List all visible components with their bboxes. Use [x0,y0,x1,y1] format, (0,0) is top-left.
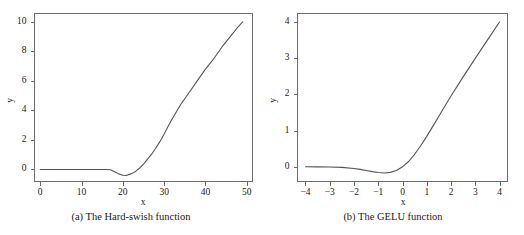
y-axis-label-b: y [269,93,279,103]
x-tick-label: 3 [473,188,478,198]
x-tick [82,182,83,186]
x-tick-label: −1 [373,188,383,198]
y-tick-label: 4 [266,17,290,27]
y-tick-label: 1 [266,126,290,136]
y-tick [294,58,298,59]
y-tick [31,22,35,23]
x-tick [500,182,501,186]
y-tick [294,22,298,23]
curve-hard-swish [34,13,253,182]
curve-gelu [297,13,508,182]
y-tick [294,167,298,168]
x-tick-label: 0 [38,188,43,198]
y-tick-label: 0 [266,162,290,172]
y-tick [31,140,35,141]
x-tick [451,182,452,186]
plot-area-hard-swish [34,13,253,182]
y-tick [31,51,35,52]
series-line [40,22,242,176]
x-axis-label-a: x [141,198,146,208]
caption-b: (b) The GELU function [262,211,524,223]
y-tick-label: 8 [3,47,27,57]
y-tick [294,131,298,132]
y-tick-label: 2 [3,135,27,145]
caption-a: (a) The Hard-swish function [0,211,262,223]
x-tick [205,182,206,186]
x-tick-label: 2 [449,188,454,198]
x-tick-label: −4 [300,188,310,198]
x-tick-label: −2 [349,188,359,198]
y-tick [31,110,35,111]
panel-gelu: −4−3−2−101234 01234 x y (b) The GELU fun… [262,0,524,235]
y-tick [31,169,35,170]
plot-area-gelu [297,13,508,182]
x-tick-label: 40 [201,188,211,198]
x-tick-label: 4 [497,188,502,198]
x-tick-label: 20 [118,188,128,198]
y-tick [294,94,298,95]
y-tick-label: 0 [3,165,27,175]
x-tick [247,182,248,186]
y-tick [31,81,35,82]
x-tick-label: 30 [159,188,169,198]
figure-container: 01020304050 0246810 x y (a) The Hard-swi… [0,0,524,235]
x-tick-label: 10 [77,188,87,198]
x-tick-label: −3 [325,188,335,198]
x-tick-label: 1 [424,188,429,198]
x-tick [123,182,124,186]
x-tick-label: 50 [242,188,252,198]
x-tick [427,182,428,186]
x-tick [164,182,165,186]
x-tick [403,182,404,186]
x-tick [305,182,306,186]
x-axis-label-b: x [401,198,406,208]
y-tick-label: 4 [3,106,27,116]
series-line [305,22,499,173]
x-tick [40,182,41,186]
y-axis-label-a: y [6,93,16,103]
x-tick [354,182,355,186]
panel-hard-swish: 01020304050 0246810 x y (a) The Hard-swi… [0,0,262,235]
x-tick [475,182,476,186]
y-tick-label: 6 [3,76,27,86]
y-tick-label: 10 [3,17,27,27]
x-tick [378,182,379,186]
x-tick [330,182,331,186]
y-tick-label: 3 [266,53,290,63]
